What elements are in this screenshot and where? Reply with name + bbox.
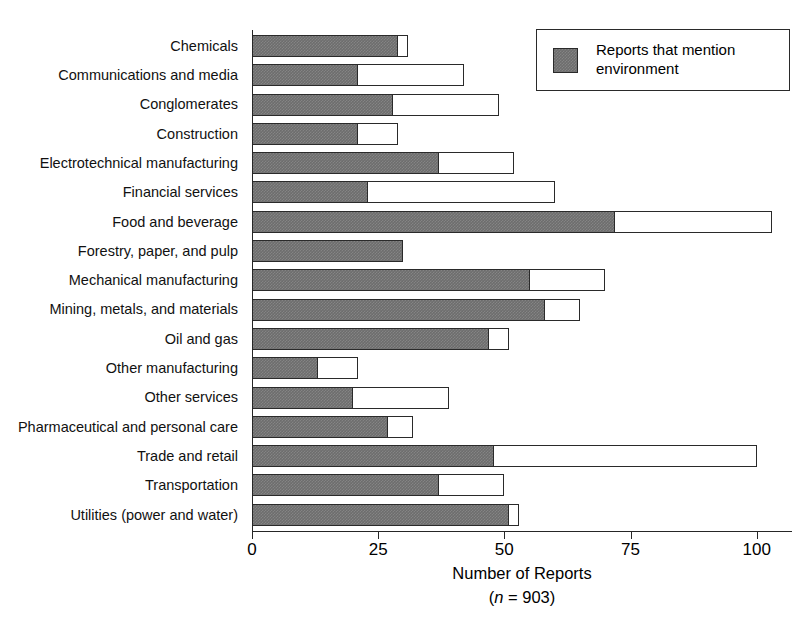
category-label: Chemicals (0, 35, 246, 57)
x-axis-tick (252, 531, 253, 539)
bar-environment-mention (252, 504, 509, 526)
bar-environment-mention (252, 35, 398, 57)
x-axis-tick-label: 100 (742, 541, 770, 558)
bar-environment-mention (252, 387, 353, 409)
bar-row (252, 211, 792, 233)
bar-environment-mention (252, 328, 489, 350)
x-axis-tick-label: 0 (247, 541, 256, 558)
bar-row (252, 474, 792, 496)
bar-chart-figure: ChemicalsCommunications and mediaConglom… (0, 0, 812, 632)
bar-row (252, 416, 792, 438)
category-label: Other services (0, 387, 246, 409)
bar-row (252, 445, 792, 467)
bar-row (252, 94, 792, 116)
x-axis-sample-size: (n = 903) (252, 589, 792, 606)
bar-row (252, 152, 792, 174)
category-label: Other manufacturing (0, 357, 246, 379)
x-axis-tick (631, 531, 632, 539)
category-label: Communications and media (0, 64, 246, 86)
category-label: Food and beverage (0, 211, 246, 233)
category-label: Mining, metals, and materials (0, 299, 246, 321)
bar-environment-mention (252, 152, 439, 174)
bar-environment-mention (252, 269, 530, 291)
bar-row (252, 181, 792, 203)
category-label: Conglomerates (0, 94, 246, 116)
category-label: Mechanical manufacturing (0, 269, 246, 291)
chart-legend: Reports that mention environment (536, 29, 790, 91)
bar-environment-mention (252, 357, 318, 379)
bar-row (252, 357, 792, 379)
bar-environment-mention (252, 181, 368, 203)
bar-environment-mention (252, 64, 358, 86)
bar-row (252, 299, 792, 321)
bar-row (252, 269, 792, 291)
category-label: Trade and retail (0, 445, 246, 467)
category-label: Utilities (power and water) (0, 504, 246, 526)
bar-environment-mention (252, 445, 494, 467)
bar-row (252, 504, 792, 526)
bar-environment-mention (252, 94, 393, 116)
category-label: Pharmaceutical and personal care (0, 416, 246, 438)
bar-environment-mention (252, 123, 358, 145)
category-label: Transportation (0, 474, 246, 496)
y-axis-line (252, 30, 253, 533)
bar-environment-mention (252, 299, 545, 321)
bar-environment-mention (252, 416, 388, 438)
bar-environment-mention (252, 474, 439, 496)
x-axis-title: Number of Reports (252, 565, 792, 582)
x-axis-tick (757, 531, 758, 539)
bar-row (252, 328, 792, 350)
legend-label-environment: Reports that mention environment (596, 41, 766, 79)
category-label: Forestry, paper, and pulp (0, 240, 246, 262)
x-axis-tick-label: 50 (495, 541, 514, 558)
category-label: Oil and gas (0, 328, 246, 350)
legend-swatch-environment-icon (553, 48, 578, 73)
category-axis-labels: ChemicalsCommunications and mediaConglom… (0, 35, 246, 533)
category-label: Electrotechnical manufacturing (0, 152, 246, 174)
bar-row (252, 387, 792, 409)
category-label: Construction (0, 123, 246, 145)
plot-area: 0255075100 (252, 30, 792, 535)
bar-environment-mention (252, 211, 615, 233)
x-axis-tick-label: 75 (621, 541, 640, 558)
bar-environment-mention (252, 240, 403, 262)
category-label: Financial services (0, 181, 246, 203)
bar-row (252, 123, 792, 145)
x-axis-tick (504, 531, 505, 539)
x-axis-tick-label: 25 (369, 541, 388, 558)
bar-row (252, 240, 792, 262)
bars-container (252, 35, 792, 533)
x-axis-tick (378, 531, 379, 539)
x-axis-line (252, 531, 792, 532)
